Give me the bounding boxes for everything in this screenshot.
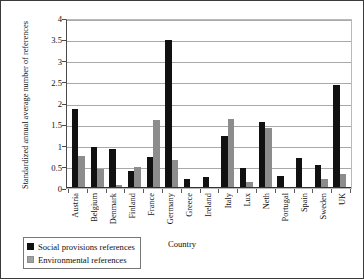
y-axis-tick-mark xyxy=(62,104,66,105)
bar-group xyxy=(237,20,256,188)
bar-group xyxy=(106,20,125,188)
bar-social xyxy=(109,149,116,188)
bar-group xyxy=(312,20,331,188)
bar-env xyxy=(340,174,347,188)
bar-env xyxy=(172,160,179,188)
y-axis-tick-label: 1 xyxy=(22,142,62,152)
y-axis-tick-mark xyxy=(62,82,66,83)
bar-social xyxy=(333,85,340,188)
y-axis-tick-label: 3.5 xyxy=(22,35,62,45)
x-axis-tick-label: Belgium xyxy=(85,193,104,237)
y-axis-tick-label: 0 xyxy=(22,184,62,194)
bar-group xyxy=(181,20,200,188)
y-axis-tick-mark xyxy=(62,61,66,62)
bar-group xyxy=(144,20,163,188)
bar-group xyxy=(218,20,237,188)
bar-series-container xyxy=(67,20,351,188)
x-axis-tick-label: Greece xyxy=(180,193,199,237)
bar-group xyxy=(256,20,275,188)
bar-social xyxy=(296,158,303,188)
y-axis-tick-mark xyxy=(62,167,66,168)
legend-swatch-social-icon xyxy=(27,243,34,250)
y-axis-tick-label: 1.5 xyxy=(22,120,62,130)
bar-env xyxy=(97,169,104,188)
bar-env xyxy=(153,120,160,188)
y-axis-tick-mark xyxy=(62,146,66,147)
bar-env xyxy=(228,119,235,188)
legend-swatch-environmental-icon xyxy=(27,256,34,263)
x-axis-tick-label: Finland xyxy=(123,193,142,237)
x-axis-tick-label: Spain xyxy=(295,193,314,237)
x-axis-tick-label: Sweden xyxy=(314,193,333,237)
x-axis-tick-label: Austria xyxy=(66,193,85,237)
x-axis-baseline xyxy=(67,187,351,188)
x-axis-labels: AustriaBelgiumDenmarkFinlandFranceGerman… xyxy=(66,193,352,237)
x-axis-tick-label: Lux xyxy=(238,193,257,237)
bar-env xyxy=(78,156,85,188)
y-axis-tick-mark xyxy=(62,40,66,41)
x-axis-tick-label: France xyxy=(142,193,161,237)
plot-area xyxy=(66,19,352,189)
bar-group xyxy=(69,20,88,188)
y-axis-tick-label: 0.5 xyxy=(22,163,62,173)
bar-group xyxy=(293,20,312,188)
bar-group xyxy=(200,20,219,188)
bar-group xyxy=(88,20,107,188)
y-axis-tick-label: 2 xyxy=(22,99,62,109)
x-axis-tick-label: Germany xyxy=(161,193,180,237)
bar-group xyxy=(274,20,293,188)
x-axis-tick-label: UK xyxy=(333,193,352,237)
x-axis-tick-label: Denmark xyxy=(104,193,123,237)
y-axis-tick-label: 2.5 xyxy=(22,78,62,88)
x-axis-tick-label: Neth xyxy=(257,193,276,237)
bar-env xyxy=(134,167,141,188)
chart-legend: Social provisions references Environment… xyxy=(23,237,141,269)
x-axis-tick-label: Ireland xyxy=(199,193,218,237)
bar-env xyxy=(265,128,272,188)
y-axis-tick-label: 4 xyxy=(22,14,62,24)
bar-chart-figure: Standardized annual average number of re… xyxy=(0,0,364,279)
bar-group xyxy=(330,20,349,188)
y-axis-tick-mark xyxy=(62,19,66,20)
legend-label-social: Social provisions references xyxy=(38,242,135,252)
legend-item-environmental: Environmental references xyxy=(27,253,135,266)
bar-group xyxy=(162,20,181,188)
y-axis-tick-mark xyxy=(62,125,66,126)
x-axis-tick-label: Portugal xyxy=(276,193,295,237)
legend-item-social: Social provisions references xyxy=(27,240,135,253)
bar-group xyxy=(125,20,144,188)
x-axis-tick-label: Italy xyxy=(219,193,238,237)
legend-label-environmental: Environmental references xyxy=(38,255,127,265)
y-axis-tick-label: 3 xyxy=(22,57,62,67)
